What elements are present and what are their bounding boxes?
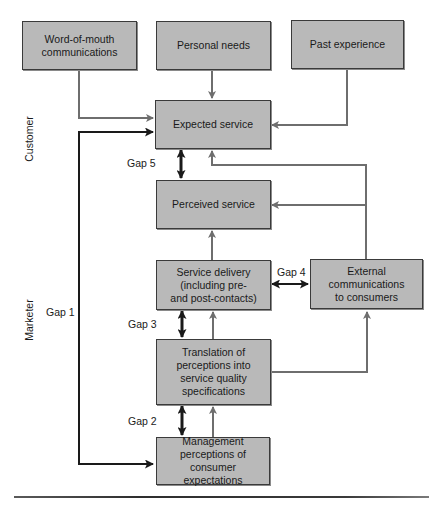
box-perceived-service: Perceived service — [156, 180, 271, 229]
box-service-delivery: Service delivery (including pre- and pos… — [156, 260, 271, 310]
gap2-label: Gap 2 — [128, 415, 157, 427]
box-translation: Translation of perceptions into service … — [156, 339, 271, 405]
arrow-past-experience-to-expected — [272, 69, 347, 125]
gap3-label: Gap 3 — [128, 318, 157, 330]
gap4-label: Gap 4 — [277, 266, 306, 278]
connector-layer — [0, 0, 437, 506]
box-past-experience: Past experience — [291, 20, 404, 69]
box-external-communications: External communications to consumers — [310, 259, 423, 309]
box-management-perceptions: Management perceptions of consumer expec… — [156, 437, 270, 485]
marketer-side-label: Marketer — [23, 297, 35, 343]
bottom-divider — [14, 496, 429, 498]
gap5-label: Gap 5 — [127, 157, 156, 169]
arrow-word-of-mouth-to-expected — [79, 69, 153, 118]
box-personal-needs: Personal needs — [156, 21, 271, 70]
gap1-label: Gap 1 — [46, 306, 75, 318]
box-expected-service: Expected service — [155, 100, 271, 149]
box-word-of-mouth: Word-of-mouth communications — [22, 21, 137, 70]
arrow-translation-to-external — [270, 312, 367, 372]
gap-model-diagram: Word-of-mouth communications Personal ne… — [0, 0, 437, 506]
customer-side-label: Customer — [23, 116, 35, 162]
